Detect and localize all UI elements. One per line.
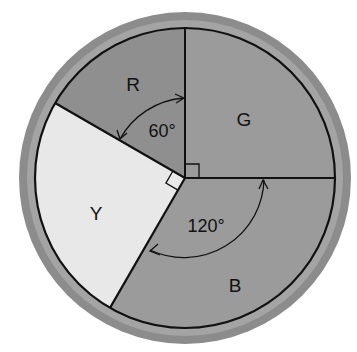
label-g: G <box>237 109 252 130</box>
label-y: Y <box>90 203 103 224</box>
sector-diagram: R G Y B 60° 120° <box>0 0 357 352</box>
sector-g <box>185 28 335 178</box>
angle-label-120: 120° <box>187 216 224 236</box>
angle-label-60: 60° <box>148 121 175 141</box>
label-b: B <box>229 275 242 296</box>
label-r: R <box>126 74 140 95</box>
